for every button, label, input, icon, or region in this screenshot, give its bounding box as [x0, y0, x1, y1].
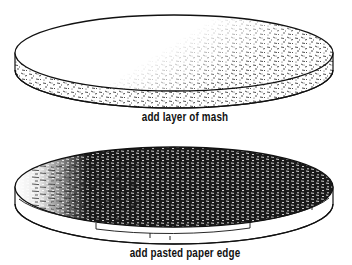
disc-drawings — [0, 0, 352, 265]
caption-add-pasted-paper-edge: add pasted paper edge — [111, 246, 259, 260]
caption-add-layer-of-mash: add layer of mash — [124, 110, 247, 124]
mash-disc — [15, 15, 333, 108]
paper-edged-disc — [15, 147, 333, 244]
illustration: add layer of mash add pasted paper edge — [0, 0, 352, 265]
